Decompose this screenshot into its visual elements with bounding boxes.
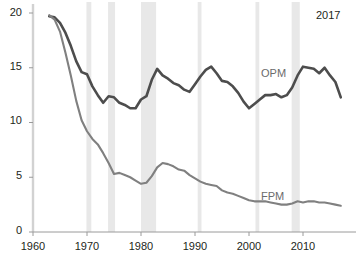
recession-band xyxy=(255,2,259,232)
x-tick-label-1980: 1980 xyxy=(121,240,161,252)
series-label-opm: OPM xyxy=(261,67,286,79)
y-tick-label-5: 5 xyxy=(0,169,22,181)
x-tick-label-1960: 1960 xyxy=(13,240,53,252)
x-tick-label-2010: 2010 xyxy=(283,240,323,252)
recession-band xyxy=(292,2,300,232)
end-year-annotation: 2017 xyxy=(316,9,340,21)
y-tick-label-0: 0 xyxy=(0,224,22,236)
x-tick-label-1970: 1970 xyxy=(67,240,107,252)
recession-band xyxy=(86,2,91,232)
recession-band xyxy=(141,2,156,232)
y-tick-label-10: 10 xyxy=(0,114,22,126)
x-tick-label-2000: 2000 xyxy=(229,240,269,252)
recession-band xyxy=(198,2,202,232)
recession-band xyxy=(108,2,115,232)
series-label-fpm: FPM xyxy=(261,190,284,202)
x-tick-label-1990: 1990 xyxy=(175,240,215,252)
chart-container: 20 15 10 5 0 1960 1970 1980 1990 2000 20… xyxy=(0,0,358,261)
y-tick-label-20: 20 xyxy=(0,6,22,18)
chart-plot-area xyxy=(0,0,358,261)
y-tick-label-15: 15 xyxy=(0,60,22,72)
